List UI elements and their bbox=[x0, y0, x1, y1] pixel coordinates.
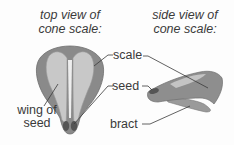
seed-leader-right bbox=[142, 86, 152, 90]
bract-label: bract bbox=[110, 118, 138, 131]
wing-of-seed-label-line2: seed bbox=[12, 117, 62, 130]
bract-leader bbox=[142, 106, 190, 124]
side-view-cone-scale-illustration bbox=[147, 71, 222, 112]
seed-label: seed bbox=[112, 80, 139, 93]
scale-label: scale bbox=[113, 49, 142, 62]
left-seed-shape bbox=[63, 121, 69, 131]
wing-of-seed-label: wing of seed bbox=[12, 104, 62, 130]
right-seed-shape bbox=[71, 121, 77, 131]
cone-scale-diagram: top view of cone scale: side view of con… bbox=[0, 0, 234, 145]
